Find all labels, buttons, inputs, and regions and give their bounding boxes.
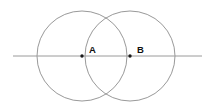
point-b-dot [128, 54, 131, 57]
point-a-label: A [89, 44, 96, 55]
diagram-canvas: A B [0, 0, 214, 108]
point-a-dot [80, 54, 83, 57]
geometry-figure: A B [0, 0, 214, 108]
point-b-label: B [137, 44, 144, 55]
